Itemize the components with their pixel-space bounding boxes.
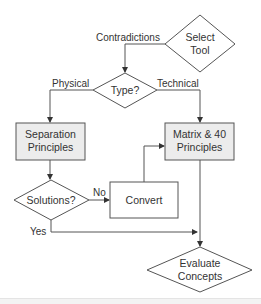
evaluate-line2: Concepts — [165, 270, 235, 283]
separation-text: Separation Principles — [16, 128, 85, 154]
type-text: Type? — [100, 84, 150, 97]
evaluate-text: Evaluate Concepts — [165, 257, 235, 283]
evaluate-line1: Evaluate — [165, 257, 235, 270]
convert-text: Convert — [110, 194, 178, 207]
matrix-line2: Principles — [165, 141, 234, 154]
separation-line2: Principles — [16, 141, 85, 154]
label-no: No — [93, 187, 106, 199]
edge-physical — [50, 90, 93, 122]
label-physical: Physical — [52, 78, 89, 90]
separation-line1: Separation — [16, 128, 85, 141]
edge-convert-to-matrix — [144, 146, 164, 182]
matrix-line1: Matrix & 40 — [165, 128, 234, 141]
edge-contradictions — [125, 44, 165, 72]
solutions-text: Solutions? — [19, 194, 83, 207]
select-tool-text: Select Tool — [170, 31, 230, 57]
bottom-band — [0, 298, 261, 304]
label-yes: Yes — [30, 226, 46, 238]
edge-yes — [51, 220, 197, 232]
label-contradictions: Contradictions — [96, 32, 160, 44]
select-tool-line1: Select — [170, 31, 230, 44]
label-technical: Technical — [157, 78, 199, 90]
select-tool-line2: Tool — [170, 44, 230, 57]
edge-technical — [157, 90, 200, 122]
matrix-text: Matrix & 40 Principles — [165, 128, 234, 154]
